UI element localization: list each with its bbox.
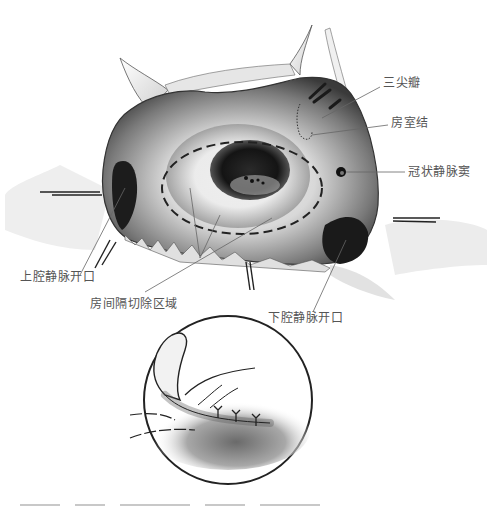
label-coronary-sinus: 冠状静脉窦 (408, 165, 471, 179)
illustration-canvas: 三尖瓣 房室结 冠状静脉窦 上腔静脉开口 房间隔切除区域 下腔静脉开口 (0, 0, 487, 507)
ivc-opening-shape (322, 217, 368, 264)
figure-caption-clipped (20, 500, 320, 507)
label-septum-excision-area: 房间隔切除区域 (90, 297, 178, 311)
label-av-node: 房室结 (391, 116, 429, 130)
label-svc-opening: 上腔静脉开口 (20, 270, 95, 284)
inset-diagram (130, 316, 312, 484)
label-tricuspid-valve: 三尖瓣 (383, 76, 421, 90)
label-ivc-opening: 下腔静脉开口 (268, 311, 343, 325)
